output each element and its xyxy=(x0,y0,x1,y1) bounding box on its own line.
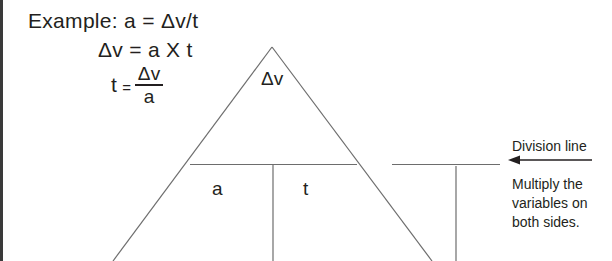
triangle-label-t: t xyxy=(303,179,308,198)
triangle-label-a: a xyxy=(212,179,223,198)
worksheet-page: Example: a = Δv/t Δv = a X t t = Δv a Δv… xyxy=(0,0,612,261)
left-arrow-head-icon xyxy=(508,156,520,165)
annotation-division-line: Division line xyxy=(512,137,587,156)
annotation-multiply-line-3: both sides. xyxy=(512,213,608,232)
annotation-multiply-line-1: Multiply the xyxy=(512,175,608,194)
triangle-left-leg xyxy=(113,47,272,261)
triangle-label-delta-v: Δv xyxy=(261,69,283,88)
annotation-multiply-line-2: variables on xyxy=(512,194,608,213)
triangle-right-leg xyxy=(272,47,432,261)
annotation-multiply-note: Multiply the variables on both sides. xyxy=(512,175,608,232)
